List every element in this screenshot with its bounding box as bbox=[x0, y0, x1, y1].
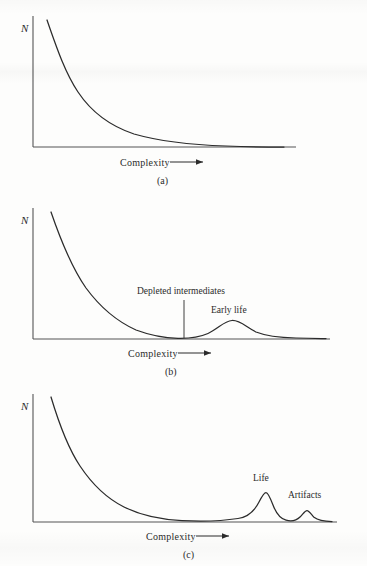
panel-b-annotation-depleted-intermediates: Depleted intermediates bbox=[137, 286, 225, 296]
panel-b-x-arrow-icon bbox=[178, 350, 211, 356]
panel-a-x-axis-label: Complexity bbox=[120, 157, 170, 168]
panel-a-caption: (a) bbox=[157, 175, 168, 186]
panel-c-x-axis-label: Complexity bbox=[146, 531, 196, 542]
panel-c-caption: (c) bbox=[183, 549, 194, 560]
panel-c-x-arrow-icon bbox=[196, 533, 229, 539]
panel-b: N Depleted intermediates Early life Comp… bbox=[0, 190, 367, 380]
panel-a-curve bbox=[47, 20, 284, 147]
panel-b-x-axis-label: Complexity bbox=[128, 348, 178, 359]
panel-b-plot bbox=[0, 190, 367, 380]
panel-a-plot bbox=[0, 0, 367, 190]
panel-b-caption: (b) bbox=[165, 366, 177, 377]
panel-a-y-axis-label: N bbox=[21, 23, 28, 34]
panel-c-annotation-artifacts: Artifacts bbox=[288, 490, 321, 500]
panel-c: N Life Artifacts Complexity (c) bbox=[0, 380, 367, 566]
panel-a-x-arrow-icon bbox=[170, 159, 203, 165]
figure-complexity-distributions: N Complexity (a) N Depleted intermediate… bbox=[0, 0, 367, 566]
panel-b-annotation-early-life: Early life bbox=[211, 305, 247, 315]
panel-b-y-axis-label: N bbox=[21, 215, 28, 226]
panel-c-y-axis-label: N bbox=[21, 401, 28, 412]
panel-b-curve bbox=[51, 212, 326, 339]
panel-c-curve bbox=[51, 397, 332, 522]
panel-a: N Complexity (a) bbox=[0, 0, 367, 190]
panel-c-annotation-life: Life bbox=[253, 473, 269, 483]
